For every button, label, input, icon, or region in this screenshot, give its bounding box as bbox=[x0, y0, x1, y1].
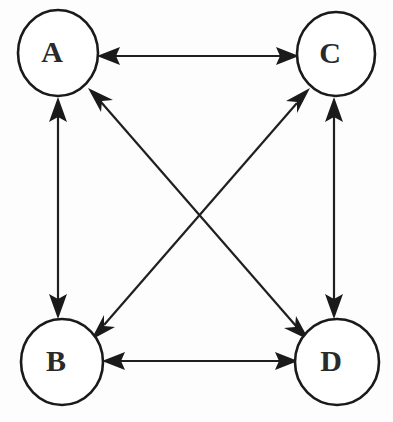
edge-a-b[interactable] bbox=[49, 97, 67, 319]
node-d[interactable]: D bbox=[295, 319, 379, 405]
node-c[interactable]: C bbox=[297, 12, 375, 96]
node-a[interactable]: A bbox=[18, 10, 98, 96]
nodes-layer: A C B D bbox=[18, 10, 379, 405]
diagram-canvas: A C B D bbox=[0, 0, 393, 422]
node-b-label: B bbox=[46, 344, 66, 377]
edge-b-c[interactable] bbox=[91, 88, 310, 340]
graph-svg: A C B D bbox=[0, 0, 393, 422]
edge-b-c-line bbox=[104, 103, 297, 325]
edge-a-c[interactable] bbox=[97, 47, 299, 65]
node-d-label: D bbox=[320, 344, 342, 377]
edge-c-d[interactable] bbox=[325, 97, 343, 319]
node-a-label: A bbox=[41, 35, 63, 68]
node-c-label: C bbox=[319, 36, 341, 69]
edges-layer bbox=[49, 47, 343, 370]
edge-b-d[interactable] bbox=[102, 352, 298, 370]
edge-b-c-arrowhead-at-c bbox=[286, 88, 310, 113]
node-b[interactable]: B bbox=[21, 319, 103, 405]
edge-a-d-line bbox=[101, 102, 296, 326]
edge-a-d-arrowhead-at-a bbox=[88, 88, 113, 112]
